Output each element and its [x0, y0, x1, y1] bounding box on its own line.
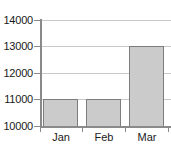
y-tick-mark-14000 — [34, 20, 40, 21]
x-tick-mark-0 — [40, 128, 41, 132]
x-tick-mark-3 — [168, 128, 169, 132]
x-tick-mark-2 — [125, 128, 126, 132]
y-tick-label-10000: 10000 — [0, 121, 33, 132]
y-tick-label-13000: 13000 — [0, 41, 33, 52]
y-tick-mark-11000 — [34, 99, 40, 100]
bar-feb — [86, 99, 121, 127]
bar-chart: 14000 13000 12000 11000 10000 Jan Feb Ma… — [0, 0, 171, 163]
bar-jan — [43, 99, 78, 127]
x-tick-mark-1 — [82, 128, 83, 132]
y-tick-label-14000: 14000 — [0, 15, 33, 26]
y-tick-label-11000: 11000 — [0, 94, 33, 105]
y-tick-label-12000: 12000 — [0, 68, 33, 79]
x-tick-label-mar: Mar — [128, 131, 166, 143]
y-tick-mark-10000 — [34, 126, 40, 127]
y-axis-line — [40, 19, 42, 127]
y-tick-mark-12000 — [34, 73, 40, 74]
gridline-14000 — [40, 20, 171, 21]
x-axis-line — [40, 126, 171, 128]
y-tick-mark-13000 — [34, 46, 40, 47]
x-tick-label-feb: Feb — [85, 131, 123, 143]
x-tick-label-jan: Jan — [42, 131, 80, 143]
bar-mar — [129, 46, 164, 127]
